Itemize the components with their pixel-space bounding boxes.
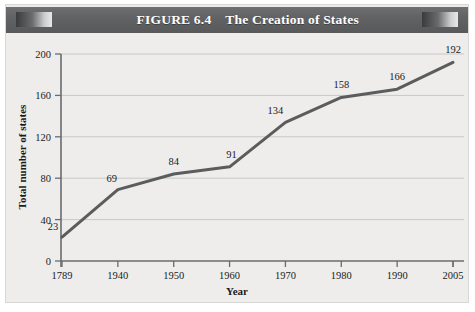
- x-tick-label: 1960: [219, 270, 240, 281]
- chart-tick-marks: [55, 54, 453, 267]
- y-tick-label: 160: [35, 90, 51, 101]
- x-tick-label: 1970: [275, 270, 296, 281]
- chart-data-line: [62, 62, 453, 237]
- data-point-label: 91: [226, 149, 237, 160]
- y-axis-title: Total number of states: [16, 77, 28, 237]
- data-point-label: 192: [445, 44, 461, 55]
- data-point-label: 166: [389, 71, 405, 82]
- y-tick-label: 0: [46, 256, 51, 267]
- x-tick-label: 1950: [163, 270, 184, 281]
- x-tick-label: 1789: [52, 270, 73, 281]
- chart-plot-area: Total number of states Year 040801201602…: [6, 33, 468, 302]
- data-point-label: 158: [333, 79, 349, 90]
- figure-title-text: The Creation of States: [225, 12, 359, 27]
- banner-decoration-right-icon: [422, 12, 458, 27]
- data-point-label: 23: [48, 221, 59, 232]
- figure-title-banner: FIGURE 6.4The Creation of States: [6, 7, 468, 33]
- figure-title: FIGURE 6.4The Creation of States: [115, 0, 359, 44]
- banner-decoration-left-icon: [16, 12, 52, 27]
- data-point-label: 69: [107, 173, 118, 184]
- y-tick-label: 80: [41, 173, 52, 184]
- x-axis-title: Year: [6, 285, 468, 297]
- figure-container: FIGURE 6.4The Creation of States Total n…: [0, 0, 475, 312]
- data-point-label: 134: [268, 105, 284, 116]
- figure-number-label: FIGURE 6.4: [137, 12, 212, 27]
- x-tick-label: 2005: [443, 270, 464, 281]
- y-tick-label: 200: [35, 49, 51, 60]
- x-tick-label: 1980: [331, 270, 352, 281]
- y-tick-label: 120: [35, 131, 51, 142]
- data-point-label: 84: [168, 156, 179, 167]
- x-tick-label: 1990: [387, 270, 408, 281]
- x-tick-label: 1940: [107, 270, 128, 281]
